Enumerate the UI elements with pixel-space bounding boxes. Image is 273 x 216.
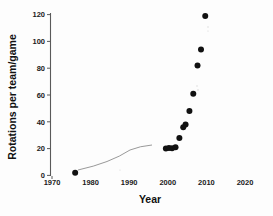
data-point	[198, 46, 204, 52]
data-point	[173, 144, 179, 150]
x-tick-label: 1970	[44, 178, 61, 187]
x-axis-tick-labels: 1970 1980 1990 2000 2010 2020	[44, 178, 254, 187]
trend-curve	[78, 145, 152, 170]
data-point	[176, 135, 182, 141]
x-axis-title: Year	[139, 193, 161, 205]
data-point	[195, 63, 201, 69]
data-point	[202, 13, 208, 19]
y-axis-tick-labels: 120 100 80 60 40 20 0	[32, 10, 45, 180]
y-tick-label: 80	[37, 64, 45, 73]
x-tick-label: 1980	[82, 178, 99, 187]
y-tick-label: 40	[37, 118, 45, 127]
y-tick-label: 100	[32, 37, 45, 46]
x-tick-label: 2010	[198, 178, 215, 187]
y-tick-label: 60	[37, 91, 45, 100]
y-axis-title: Rotations per team/game	[6, 34, 18, 160]
scatter-plot-svg: 120 100 80 60 40 20 0 Rotations per team…	[0, 0, 273, 216]
data-point	[186, 108, 192, 114]
x-tick-label: 2000	[159, 178, 176, 187]
x-tick-label: 2020	[237, 178, 254, 187]
data-point	[190, 91, 196, 97]
y-tick-label: 20	[37, 144, 45, 153]
y-tick-label: 120	[32, 10, 45, 19]
data-points-layer	[72, 13, 208, 176]
x-tick-label: 1990	[121, 178, 138, 187]
data-point	[183, 121, 189, 127]
chart-figure: 120 100 80 60 40 20 0 Rotations per team…	[0, 0, 273, 216]
data-point	[72, 170, 78, 176]
